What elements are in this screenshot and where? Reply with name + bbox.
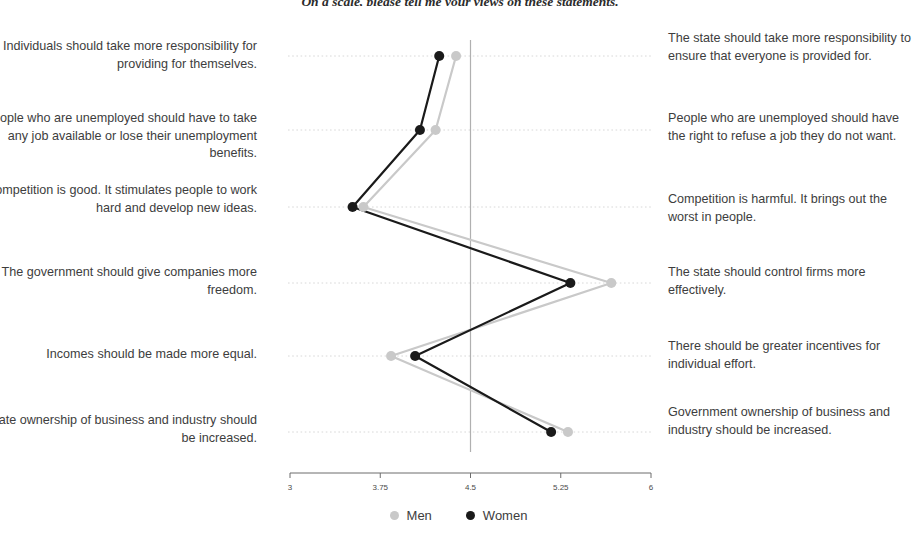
row-label-left-5: Incomes should be made more equal. — [0, 346, 257, 364]
data-point-men-5[interactable] — [386, 351, 396, 361]
legend-item-women[interactable]: Women — [466, 508, 528, 523]
row-label-right-1: The state should take more responsibilit… — [668, 30, 917, 65]
row-label-left-3: Competition is good. It stimulates peopl… — [0, 182, 257, 217]
x-tick-label-0: 3 — [288, 483, 293, 492]
legend-item-men[interactable]: Men — [390, 508, 432, 523]
data-point-women-2[interactable] — [415, 125, 425, 135]
data-point-women-1[interactable] — [434, 51, 444, 61]
series-line-men — [363, 56, 611, 432]
data-point-men-4[interactable] — [606, 278, 616, 288]
data-point-women-3[interactable] — [348, 202, 358, 212]
row-label-right-5: There should be greater incentives for i… — [668, 338, 917, 373]
legend-dot-women — [466, 511, 475, 520]
x-tick-label-3: 5.25 — [553, 483, 569, 492]
chart-legend: Men Women — [0, 508, 917, 523]
row-label-right-2: People who are unemployed should have th… — [668, 110, 917, 145]
data-series — [348, 51, 617, 437]
data-point-men-6[interactable] — [563, 427, 573, 437]
row-label-left-2: People who are unemployed should have to… — [0, 110, 257, 163]
plot-area: 33.754.55.256 Individuals should take mo… — [0, 0, 917, 548]
data-point-men-3[interactable] — [358, 202, 368, 212]
legend-dot-men — [390, 511, 399, 520]
legend-label-men: Men — [407, 508, 432, 523]
data-point-men-2[interactable] — [431, 125, 441, 135]
series-line-women — [353, 56, 571, 432]
x-tick-label-2: 4.5 — [465, 483, 477, 492]
row-label-right-4: The state should control firms more effe… — [668, 264, 917, 299]
row-label-left-6: Private ownership of business and indust… — [0, 412, 257, 447]
legend-label-women: Women — [483, 508, 528, 523]
data-point-men-1[interactable] — [451, 51, 461, 61]
row-label-left-1: Individuals should take more responsibil… — [0, 38, 257, 73]
data-point-women-4[interactable] — [565, 278, 575, 288]
x-tick-label-1: 3.75 — [372, 483, 388, 492]
data-point-women-5[interactable] — [410, 351, 420, 361]
data-point-women-6[interactable] — [546, 427, 556, 437]
row-label-left-4: The government should give companies mor… — [0, 264, 257, 299]
x-axis: 33.754.55.256 — [288, 473, 654, 492]
row-label-right-3: Competition is harmful. It brings out th… — [668, 191, 917, 226]
x-tick-label-4: 6 — [649, 483, 654, 492]
row-label-right-6: Government ownership of business and ind… — [668, 404, 917, 439]
